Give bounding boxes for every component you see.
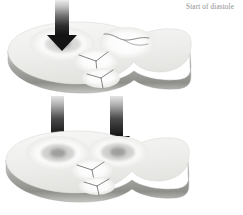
inflow-arrow-top-left-shaft <box>55 0 69 36</box>
upper-valve-plane-disc <box>8 22 191 93</box>
valve-plane-illustration <box>0 0 243 215</box>
lower-valve-plane-disc <box>6 131 189 202</box>
inflow-arrow-lower-right-shaft <box>110 96 123 137</box>
inflow-arrow-lower-left-shaft <box>51 96 64 137</box>
figure-canvas: Start of diastole <box>0 0 243 215</box>
figure-caption: Start of diastole <box>186 3 234 12</box>
lower-mitral-opening-core <box>50 149 66 158</box>
lower-tricuspid-opening-core <box>110 148 126 157</box>
